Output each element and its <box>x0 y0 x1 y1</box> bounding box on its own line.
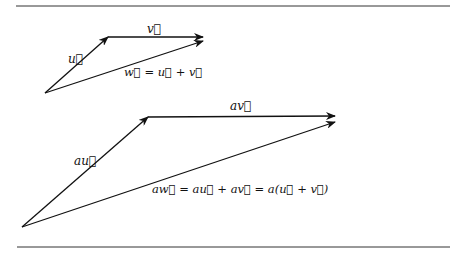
label-av: av⃗ <box>230 99 251 113</box>
vector-scaling-diagram: u⃗ v⃗ w⃗ = u⃗ + v⃗ au⃗ av⃗ aw⃗ = au⃗ + a… <box>0 0 467 257</box>
small-triangle: u⃗ v⃗ w⃗ = u⃗ + v⃗ <box>45 22 203 93</box>
label-u: u⃗ <box>68 52 83 66</box>
large-triangle: au⃗ av⃗ aw⃗ = au⃗ + av⃗ = a(u⃗ + v⃗) <box>22 99 335 227</box>
label-v: v⃗ <box>147 22 161 36</box>
vector-au-arrow <box>22 117 148 227</box>
vector-av-arrow <box>148 116 335 117</box>
label-aw-equation: aw⃗ = au⃗ + av⃗ = a(u⃗ + v⃗) <box>152 182 328 196</box>
label-au: au⃗ <box>74 154 96 168</box>
label-w-equation: w⃗ = u⃗ + v⃗ <box>124 65 202 79</box>
vector-aw-arrow <box>22 122 335 227</box>
